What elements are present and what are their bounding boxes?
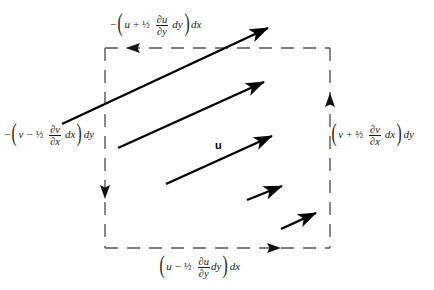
flux-label-top: −(u+½∂u∂ydy)dx [110,14,201,37]
flux-bottom-base-symbol: u [166,260,172,272]
flux-left-base-symbol: v [19,128,24,140]
flux-label-right: (v+½∂v∂xdx)dy [330,124,414,147]
velocity-arrow-4 [247,186,282,200]
flux-top-differential-outer: dx [191,18,201,30]
flux-top-operator: + [133,18,139,30]
flux-right-operator: + [346,128,352,140]
flux-bottom-derivative: ∂u∂y [198,256,210,279]
flux-right-derivative-denominator: ∂x [369,136,381,147]
velocity-symbol-label: u [215,139,222,151]
flux-left-derivative-denominator: ∂x [49,136,61,147]
flux-right-coefficient: ½ [355,129,363,140]
flux-top-differential-inner: dy [172,18,182,30]
flux-top-derivative-numerator: ∂u [156,14,168,26]
velocity-arrow-1 [62,28,268,124]
flux-left-derivative-numerator: ∂v [49,124,61,136]
flux-top-derivative-denominator: ∂y [156,26,168,37]
flux-label-left: −(v−½∂v∂xdx)dy [4,124,94,147]
flux-left-derivative: ∂v∂x [49,124,61,147]
velocity-arrow-2 [118,82,264,148]
flux-bottom-derivative-numerator: ∂u [198,256,210,268]
flux-left-operator: − [26,128,32,140]
flux-top-sign: − [110,18,116,30]
flux-right-derivative-numerator: ∂v [369,124,381,136]
flux-right-derivative: ∂v∂x [369,124,381,147]
flux-top-coefficient: ½ [142,19,150,30]
flux-right-differential-inner: dx [385,128,395,140]
velocity-profile-arrows [62,28,316,229]
flux-bottom-differential-inner: dy [211,260,221,272]
flux-left-differential-inner: dx [65,128,75,140]
flux-bottom-operator: − [175,260,181,272]
flux-left-coefficient: ½ [36,129,44,140]
flux-label-bottom: (u−½∂u∂ydy)dx [158,256,240,279]
vorticity-circulation-figure: −(u+½∂u∂ydy)dx −(v−½∂v∂xdx)dy (v+½∂v∂xdx… [0,0,434,290]
flux-right-differential-outer: dy [404,128,414,140]
flux-bottom-differential-outer: dx [230,260,240,272]
flux-right-base-symbol: v [338,128,343,140]
velocity-arrow-5 [281,213,316,229]
flux-bottom-derivative-denominator: ∂y [198,268,210,279]
flux-left-sign: − [4,128,10,140]
flux-left-differential-outer: dy [84,128,94,140]
flux-top-base-symbol: u [125,18,131,30]
flux-bottom-coefficient: ½ [184,261,192,272]
flux-top-derivative: ∂u∂y [156,14,168,37]
